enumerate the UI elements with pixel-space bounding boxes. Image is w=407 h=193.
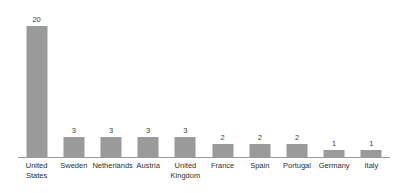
bar-value-label: 3 [183,126,187,135]
bar [100,137,121,157]
bar-value-label: 2 [295,133,299,142]
tick-label: Sweden [55,161,92,171]
tick-label: Spain [241,161,278,171]
bar-column: 3 [130,8,167,157]
bar [26,26,47,157]
bar-group: 3 [167,8,204,157]
bar-group: 20 [18,8,55,157]
bar-group: 1 [316,8,353,157]
bar-value-label: 3 [72,126,76,135]
plot-area: 20333322211 [18,8,390,157]
bar-column: 3 [92,8,129,157]
bar-group: 2 [204,8,241,157]
bar-group: 3 [92,8,129,157]
tick-label: United Kingdom [167,161,204,181]
bar-value-label: 20 [32,15,40,24]
x-axis-baseline [18,157,390,158]
bar-group: 1 [353,8,390,157]
bar-chart: 20333322211 United StatesSwedenNetherlan… [0,0,407,193]
tick-label: United States [18,161,55,181]
bar-column: 2 [278,8,315,157]
bar-column: 2 [204,8,241,157]
bar-value-label: 2 [258,133,262,142]
bar [212,144,233,157]
bar-column: 1 [353,8,390,157]
bar-column: 20 [18,8,55,157]
bar-group: 3 [55,8,92,157]
x-axis-tick-labels: United StatesSwedenNetherlandsAustriaUni… [18,161,390,191]
bar-group: 2 [278,8,315,157]
bar-group: 2 [241,8,278,157]
tick-label: Germany [316,161,353,171]
bar [249,144,270,157]
bar [63,137,84,157]
bar-group: 3 [130,8,167,157]
bar-column: 3 [55,8,92,157]
bar [175,137,196,157]
bar-column: 3 [167,8,204,157]
bar [138,137,159,157]
tick-label: Netherlands [92,161,129,171]
bar [286,144,307,157]
bar-value-label: 1 [369,139,373,148]
tick-label: Italy [353,161,390,171]
bar-value-label: 2 [221,133,225,142]
bar-value-label: 1 [332,139,336,148]
bar-value-label: 3 [109,126,113,135]
tick-label: Portugal [278,161,315,171]
tick-label: Austria [130,161,167,171]
bar-column: 2 [241,8,278,157]
tick-label: France [204,161,241,171]
bar-column: 1 [316,8,353,157]
bar-value-label: 3 [146,126,150,135]
